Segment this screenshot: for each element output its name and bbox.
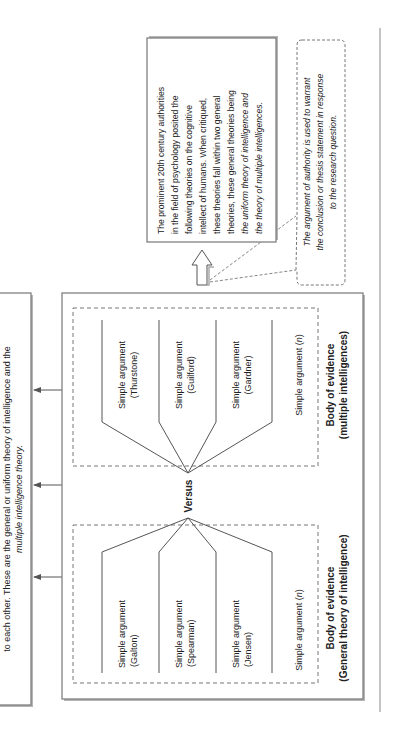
versus-label: Versus (183, 479, 194, 512)
svg-text:Simple argument: Simple argument (231, 599, 241, 668)
conclusion-line-7: the uniform theory of intelligence and (240, 93, 250, 234)
conclusion-line-3: following theories on the cognitive (184, 105, 194, 234)
svg-text:(Thurstone): (Thurstone) (129, 352, 139, 399)
support-arrows (34, 390, 62, 577)
svg-text:Simple argument (n): Simple argument (n) (294, 589, 304, 671)
argument-diagram: to each other. These are the general or … (0, 0, 396, 743)
group-subtitle-multiple: (multiple intelligences) (338, 331, 349, 439)
svg-text:(Spearman): (Spearman) (186, 619, 196, 667)
svg-text:Simple argument: Simple argument (117, 599, 127, 668)
argument-n-multiple: Simple argument (n) (294, 334, 304, 416)
callout-note: The argument of authority is used to war… (296, 40, 345, 285)
svg-text:(Gardner): (Gardner) (243, 355, 253, 394)
svg-text:Simple argument: Simple argument (174, 599, 184, 668)
main-evidence-box: Simple argument (Thurstone) Simple argum… (62, 293, 365, 701)
svg-text:(Jensen): (Jensen) (243, 632, 253, 667)
svg-text:Simple argument: Simple argument (174, 340, 184, 409)
summary-box: to each other. These are the general or … (0, 293, 33, 707)
conclusion-line-6: theories, these general theories being (226, 90, 236, 234)
conclusion-line-4: intellect of humans. When critiqued, (198, 98, 208, 234)
svg-text:Simple argument: Simple argument (117, 340, 127, 409)
group-subtitle-general: (General theory of intelligence) (338, 534, 349, 681)
callout-line-2: the conclusion or thesis statement in re… (315, 73, 325, 250)
conclusion-line-5: these theories fall within two general (212, 95, 222, 234)
svg-text:(Guilford): (Guilford) (186, 356, 196, 394)
callout-line-3: to the research question. (328, 115, 338, 210)
group-title-general: Body of evidence (325, 566, 336, 649)
svg-text:Simple argument (n): Simple argument (n) (294, 334, 304, 416)
summary-line-2: multiple intelligence theory. (14, 445, 24, 553)
summary-line-1: to each other. These are the general or … (2, 346, 12, 652)
callout-line-1: The argument of authority is used to war… (302, 77, 312, 246)
svg-text:Simple argument: Simple argument (231, 340, 241, 409)
conclusion-line-2: in the field of psychology posited the (170, 95, 180, 234)
argument-n-general: Simple argument (n) (294, 589, 304, 671)
svg-text:(Galton): (Galton) (129, 634, 139, 667)
group-title-multiple: Body of evidence (325, 343, 336, 426)
conclusion-line-1: The prominent 20th century authorities (156, 87, 166, 234)
conclusion-line-8: the theory of multiple intelligences. (254, 102, 264, 234)
conclusion-box: The prominent 20th century authorities i… (147, 36, 278, 242)
